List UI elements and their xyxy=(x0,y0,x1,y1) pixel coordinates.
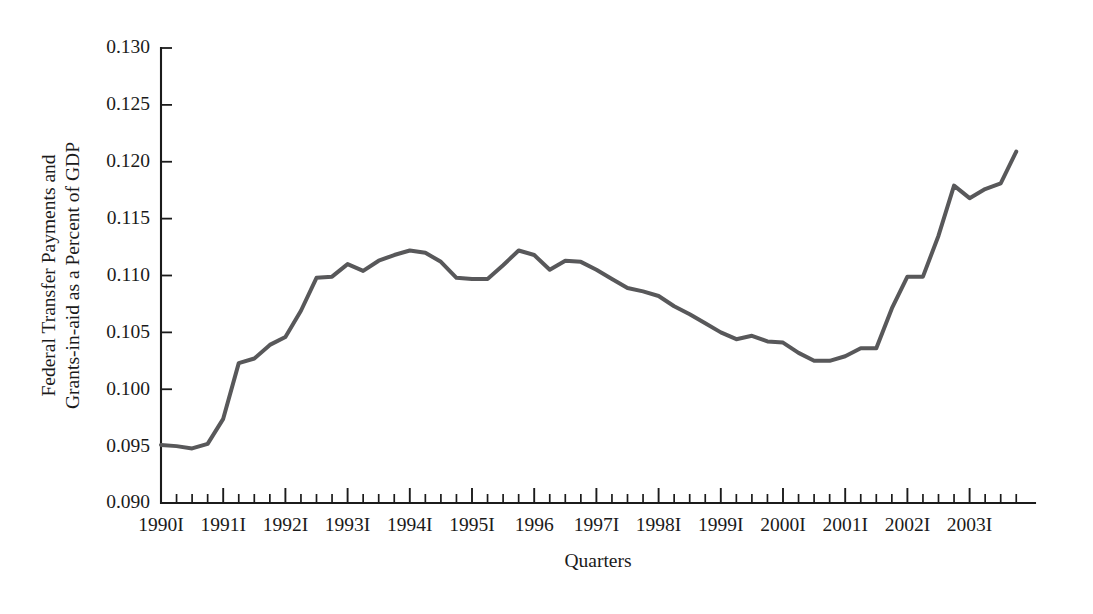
x-tick-label: 2002I xyxy=(885,514,931,535)
y-tick-label: 0.130 xyxy=(106,36,150,57)
line-chart-plot: 0.1300.1250.1200.1150.1100.1050.1000.095… xyxy=(0,0,1093,614)
x-tick-label: 1997I xyxy=(574,514,620,535)
x-axis-ticks xyxy=(161,488,1016,503)
y-tick-label: 0.105 xyxy=(106,321,150,342)
x-tick-label: 2000I xyxy=(760,514,806,535)
x-tick-label: 1995I xyxy=(449,514,495,535)
axis-spine xyxy=(161,48,1035,503)
y-tick-label: 0.100 xyxy=(106,378,150,399)
x-tick-label: 2003I xyxy=(947,514,993,535)
x-tick-label: 1999I xyxy=(698,514,744,535)
y-tick-label: 0.095 xyxy=(106,435,150,456)
x-axis-title: Quarters xyxy=(564,550,631,571)
x-tick-label: 1996 xyxy=(515,514,554,535)
y-axis-title-line-1: Federal Transfer Payments and xyxy=(38,154,59,396)
y-tick-label: 0.110 xyxy=(107,264,150,285)
x-axis-tick-labels: 1990I1991I1992I1993I1994I1995I19961997I1… xyxy=(138,514,992,535)
x-tick-label: 1992I xyxy=(263,514,309,535)
x-tick-label: 1990I xyxy=(138,514,184,535)
y-tick-label: 0.090 xyxy=(106,491,150,512)
y-tick-label: 0.115 xyxy=(107,207,150,228)
x-tick-label: 1998I xyxy=(636,514,682,535)
y-axis-title-line-2: Grants-in-aid as a Percent of GDP xyxy=(62,142,83,409)
chart-figure: 0.1300.1250.1200.1150.1100.1050.1000.095… xyxy=(0,0,1093,614)
x-tick-label: 1993I xyxy=(325,514,371,535)
y-axis-tick-labels: 0.1300.1250.1200.1150.1100.1050.1000.095… xyxy=(106,36,150,512)
x-tick-label: 2001I xyxy=(822,514,868,535)
y-axis-ticks xyxy=(161,48,172,446)
x-tick-label: 1994I xyxy=(387,514,433,535)
y-tick-label: 0.120 xyxy=(106,150,150,171)
y-tick-label: 0.125 xyxy=(106,93,150,114)
chart-axes xyxy=(161,48,1035,503)
data-series-line xyxy=(161,152,1016,449)
x-tick-label: 1991I xyxy=(200,514,246,535)
